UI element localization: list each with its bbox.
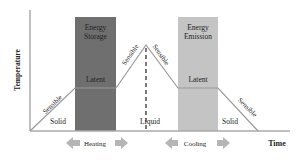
heating-left-arrow-icon	[66, 137, 80, 149]
energy-storage-label-2: Storage	[84, 32, 108, 41]
sensible-label-rise-1: Sensible	[41, 93, 64, 115]
cooling-right-arrow-icon	[217, 137, 230, 149]
latent-label-2: Latent	[188, 75, 208, 84]
cooling-label: Cooling	[184, 140, 207, 148]
heating-label: Heating	[84, 140, 107, 148]
sensible-label-fall-2: Sensible	[236, 96, 258, 118]
heating-right-arrow-icon	[115, 137, 128, 149]
solid-label-right: Solid	[222, 117, 238, 126]
energy-storage-label-1: Energy	[85, 23, 107, 32]
phase-change-diagram: Temperature Time Energy Storage Energy E…	[0, 0, 307, 160]
liquid-label: Liquid	[140, 117, 160, 126]
y-axis-label: Temperature	[13, 49, 22, 91]
energy-emission-label-1: Energy	[187, 23, 209, 32]
latent-label-1: Latent	[86, 75, 106, 84]
solid-label-left: Solid	[50, 117, 66, 126]
cooling-left-arrow-icon	[165, 137, 178, 149]
sensible-label-rise-2: Sensible	[120, 43, 140, 67]
energy-emission-label-2: Emission	[184, 32, 212, 41]
x-axis-label: Time	[268, 139, 286, 148]
